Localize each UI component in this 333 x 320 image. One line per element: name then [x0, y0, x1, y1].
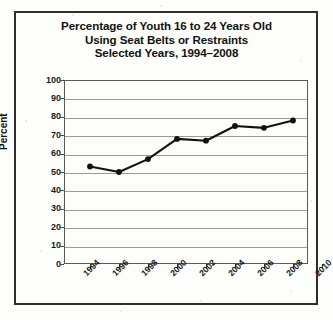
y-axis-tick-label: 70 [31, 131, 61, 140]
gridline [65, 210, 307, 211]
y-axis-tick-label: 80 [31, 112, 61, 121]
gridline [65, 99, 307, 100]
chart-title-line-3: Selected Years, 1994–2008 [24, 46, 309, 60]
y-axis-tick-label: 90 [31, 94, 61, 103]
y-axis-tick-label: 60 [31, 149, 61, 158]
gridline [65, 136, 307, 137]
chart-title: Percentage of Youth 16 to 24 Years Old U… [24, 19, 309, 60]
gridline [65, 228, 307, 229]
scan-speck [300, 60, 302, 62]
y-axis-tick-label: 10 [31, 241, 61, 250]
y-axis-tick-mark [60, 264, 64, 265]
y-axis-tick-label: 100 [31, 76, 61, 85]
scan-speck [160, 5, 162, 7]
scan-speck [72, 14, 74, 16]
plot-area [64, 80, 308, 264]
y-axis-tick-label: 20 [31, 223, 61, 232]
y-axis-title: Percent [0, 113, 9, 150]
chart-figure: Percentage of Youth 16 to 24 Years Old U… [0, 0, 333, 320]
y-axis-tick-label: 50 [31, 168, 61, 177]
scan-speck [120, 310, 122, 312]
chart-title-line-2: Using Seat Belts or Restraints [24, 33, 309, 47]
scan-speck [25, 120, 27, 122]
y-axis-tick-label: 0 [31, 260, 61, 269]
scan-speck [40, 250, 42, 252]
scan-speck [310, 200, 312, 202]
gridline [65, 155, 307, 156]
gridline [65, 247, 307, 248]
y-axis-tick-label: 40 [31, 186, 61, 195]
chart-title-line-1: Percentage of Youth 16 to 24 Years Old [24, 19, 309, 33]
y-axis-tick-label: 30 [31, 204, 61, 213]
scan-speck [200, 300, 202, 302]
scan-speck [290, 290, 292, 292]
gridline [65, 191, 307, 192]
scan-speck [250, 16, 252, 18]
gridline [65, 173, 307, 174]
gridline [65, 118, 307, 119]
